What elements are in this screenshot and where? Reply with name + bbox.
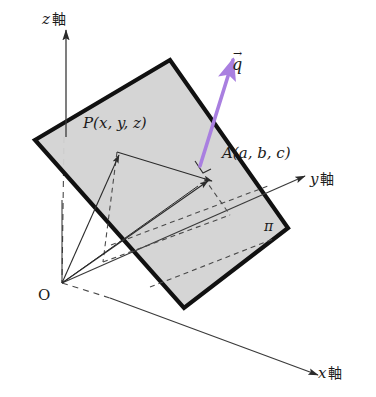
y-axis-variable: y	[310, 170, 318, 188]
z-axis-variable: z	[42, 10, 50, 28]
vector-q-symbol: q	[232, 55, 242, 74]
x-axis-variable: x	[318, 364, 326, 382]
origin-label: O	[38, 288, 50, 303]
plane-pi-label: π	[264, 219, 273, 233]
x-axis-label: x軸	[318, 366, 342, 381]
point-a-label: A(a, b, c)	[222, 146, 291, 161]
plane-pi	[35, 60, 288, 308]
y-axis-label: y軸	[310, 172, 334, 187]
figure-canvas	[0, 0, 376, 397]
z-axis-label: z軸	[42, 12, 66, 27]
point-p-label: P(x, y, z)	[83, 116, 147, 131]
x-axis-word: 軸	[328, 365, 342, 381]
y-axis-word: 軸	[320, 171, 334, 187]
math-figure-3d-plane: z軸 y軸 x軸 P(x, y, z) A(a, b, c) O π → q	[0, 0, 376, 397]
z-axis-word: 軸	[52, 11, 66, 27]
vector-q-label: → q	[232, 52, 242, 73]
